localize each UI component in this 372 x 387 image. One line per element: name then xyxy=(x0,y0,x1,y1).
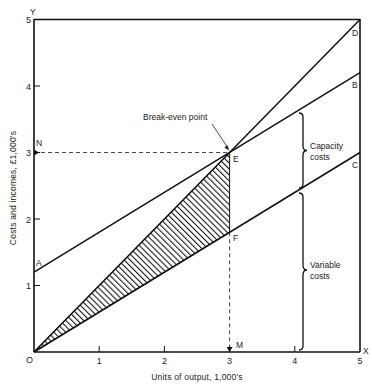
x-end-label: X xyxy=(363,346,369,356)
break-even-arrow-line xyxy=(212,124,228,148)
x-tick-labels: 1 2 3 4 5 xyxy=(97,356,363,366)
x-tick-4: 4 xyxy=(292,356,297,366)
label-N: N xyxy=(36,138,42,148)
line-income-OD xyxy=(34,20,360,353)
label-M: M xyxy=(236,340,243,350)
x-ticks xyxy=(99,346,295,352)
x-tick-2: 2 xyxy=(162,356,167,366)
label-A: A xyxy=(36,258,42,268)
capacity-costs-label-2: costs xyxy=(310,152,330,162)
x-tick-1: 1 xyxy=(97,356,102,366)
y-axis-title: Costs and incomes, £1,000's xyxy=(8,131,18,245)
y-tick-4: 4 xyxy=(26,82,31,92)
line-variable-costs-OC xyxy=(34,153,360,353)
break-even-chart: 1 2 3 4 5 1 2 3 4 5 O X Y D B C A E F M … xyxy=(0,0,372,387)
variable-costs-brace xyxy=(299,193,307,350)
capacity-costs-brace xyxy=(299,113,307,188)
x-tick-3: 3 xyxy=(227,356,232,366)
marker-N-arrow xyxy=(34,150,39,156)
label-D: D xyxy=(352,28,358,38)
y-end-label: Y xyxy=(30,7,36,17)
break-even-arrowhead xyxy=(224,145,229,150)
x-tick-5: 5 xyxy=(357,356,362,366)
label-C: C xyxy=(352,160,358,170)
origin-label: O xyxy=(26,355,33,365)
label-F: F xyxy=(233,233,238,243)
y-tick-1: 1 xyxy=(26,281,31,291)
x-axis-title: Units of output, 1,000's xyxy=(151,372,242,382)
variable-costs-label-1: Variable xyxy=(310,260,341,270)
label-B: B xyxy=(352,80,358,90)
label-E: E xyxy=(233,154,239,164)
y-ticks xyxy=(34,86,40,286)
y-tick-3: 3 xyxy=(26,148,31,158)
y-tick-2: 2 xyxy=(26,215,31,225)
break-even-label: Break-even point xyxy=(143,112,208,122)
capacity-costs-label-1: Capacity xyxy=(310,141,344,151)
variable-costs-label-2: costs xyxy=(310,271,330,281)
y-tick-labels: 1 2 3 4 5 xyxy=(26,15,31,291)
